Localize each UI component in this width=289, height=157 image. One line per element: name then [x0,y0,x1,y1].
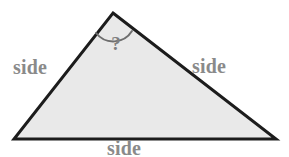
side-label-right: side [192,56,226,76]
side-label-bottom: side [107,138,141,157]
triangle-diagram-svg [0,0,289,157]
triangle-shape [14,13,276,139]
triangle-figure: side side side ? [0,0,289,157]
angle-unknown-label: ? [107,34,125,53]
side-label-left: side [13,57,47,77]
